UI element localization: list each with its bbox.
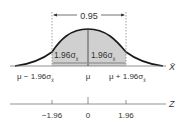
bracket-label: 0.95 xyxy=(80,11,98,21)
xbar-axis-name: X̄ xyxy=(168,62,176,72)
right-half-label: 1.96σx̄ xyxy=(91,50,116,62)
z-tick-label-left: −1.96 xyxy=(42,111,63,120)
arrowhead-right-icon xyxy=(121,14,125,17)
z-axis-name: Z xyxy=(168,99,175,109)
xbar-tick-center: μ xyxy=(86,72,91,81)
left-half-label: 1.96σx̄ xyxy=(54,50,79,62)
arrowhead-left-icon xyxy=(53,14,57,17)
xbar-tick-right: μ + 1.96σx̄ xyxy=(109,72,146,83)
z-tick-label-right: 1.96 xyxy=(118,111,134,120)
xbar-tick-left: μ − 1.96σx̄ xyxy=(17,72,54,83)
normal-distribution-diagram: 0.95 1.96σx̄ 1.96σx̄ X̄ μ − 1.96σx̄ μ μ … xyxy=(0,0,187,134)
z-tick-label-center: 0 xyxy=(86,111,91,120)
